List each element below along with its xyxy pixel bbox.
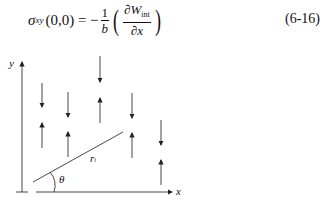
x-axis-label: x [176, 185, 181, 197]
radius-label: ri [90, 152, 96, 164]
y-axis-label: y [9, 57, 14, 69]
dislocation-figure [0, 0, 335, 206]
angle-arc [50, 172, 55, 192]
angle-label: θ [59, 173, 64, 185]
stress-arrows [42, 56, 161, 185]
r-sub: i [94, 157, 96, 163]
radius-line [33, 132, 123, 182]
